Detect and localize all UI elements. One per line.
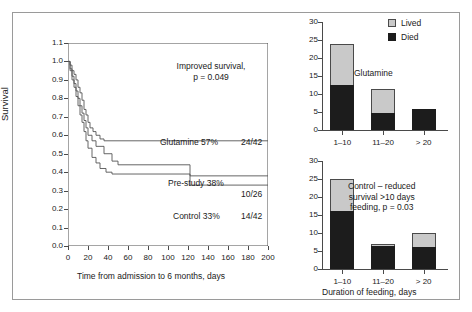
km-y-tick-label: 0.1 [41, 223, 63, 232]
glutamine-annotation: Glutamine [354, 68, 393, 79]
bar-y-tick-label: 20 [298, 192, 318, 201]
bar-y-tick-label: 10 [298, 228, 318, 237]
bar-y-tick-label: 0 [298, 264, 318, 273]
legend-swatch-died-icon [388, 33, 396, 41]
bar-y-axis-line [322, 161, 323, 270]
bar-segment-died [412, 247, 436, 269]
km-x-tick [208, 246, 209, 250]
bar-x-tick [383, 131, 384, 135]
bar-segment-died [371, 113, 395, 130]
control-annotation-line1: Control – reduced [348, 181, 416, 192]
km-y-tick-label: 0.3 [41, 186, 63, 195]
km-y-tick-label: 0.8 [41, 93, 63, 102]
bar-x-axis-line [322, 130, 448, 131]
km-x-tick [188, 246, 189, 250]
km-x-axis-title: Time from admission to 6 months, days [77, 271, 225, 281]
bar-y-tick [318, 197, 322, 198]
km-x-tick [108, 246, 109, 250]
bar-category-label: 11–20 [363, 277, 403, 286]
legend-item-lived: Lived [388, 18, 450, 28]
km-x-tick [168, 246, 169, 250]
km-y-tick-label: 0.4 [41, 167, 63, 176]
bar-y-tick [318, 40, 322, 41]
bar-x-tick [342, 131, 343, 135]
km-x-tick [88, 246, 89, 250]
bar-segment-died [330, 85, 354, 130]
legend-item-died: Died [388, 32, 450, 42]
bar-segment-died [330, 211, 354, 269]
km-curve-label-control: Control 33% [173, 211, 220, 222]
bar-x-tick [342, 270, 343, 274]
bar-segment-died [371, 246, 395, 269]
km-y-tick-label: 0.5 [41, 149, 63, 158]
bar-y-tick-label: 30 [298, 156, 318, 165]
bar-y-tick [318, 233, 322, 234]
bar-category-label: > 20 [404, 138, 444, 147]
legend-label-lived: Lived [401, 18, 421, 28]
km-annotation-line1: Improved survival, [161, 61, 261, 72]
km-ratio-prestudy: 10/26 [241, 189, 262, 199]
bar-segment-lived [371, 89, 395, 113]
bar-y-tick [318, 161, 322, 162]
bar-segment-died [412, 109, 436, 130]
bar-x-axis-line [322, 269, 448, 270]
bar-y-tick-label: 20 [298, 53, 318, 62]
chart-legend: Lived Died [388, 18, 450, 46]
bar-category-label: 1–10 [322, 138, 362, 147]
bar-y-tick [318, 269, 322, 270]
bar-x-tick [424, 131, 425, 135]
bar-y-tick-label: 0 [298, 125, 318, 134]
bar-y-tick-label: 25 [298, 35, 318, 44]
bar-y-tick [318, 76, 322, 77]
km-y-tick-label: 0.2 [41, 204, 63, 213]
legend-swatch-lived-icon [388, 19, 396, 27]
km-ratio-glutamine: 24/42 [241, 137, 262, 147]
km-x-tick [228, 246, 229, 250]
km-y-axis-title: Survival [0, 87, 10, 121]
bar-category-label: 11–20 [363, 138, 403, 147]
control-annotation-line2: survival >10 days [348, 192, 416, 203]
km-curve-label-glutamine: Glutamine 57% [160, 137, 218, 148]
bar-y-tick [318, 215, 322, 216]
km-y-tick-label: 1.1 [41, 38, 63, 47]
bar-y-tick-label: 5 [298, 246, 318, 255]
figure-root: Survival 0.00.10.20.30.40.50.60.70.80.91… [0, 0, 472, 312]
km-x-tick [68, 246, 69, 250]
bar-y-tick [318, 179, 322, 180]
control-bar-plot-area [322, 161, 444, 269]
control-x-axis-title: Duration of feeding, days [322, 287, 417, 297]
km-y-tick-label: 0.9 [41, 75, 63, 84]
bar-y-tick-label: 15 [298, 71, 318, 80]
km-y-tick-label: 0.0 [41, 241, 63, 250]
km-x-tick-label: 200 [256, 253, 280, 262]
bar-y-tick-label: 25 [298, 174, 318, 183]
bar-x-tick [424, 270, 425, 274]
km-y-tick-label: 0.7 [41, 112, 63, 121]
bar-category-label: 1–10 [322, 277, 362, 286]
bar-category-label: > 20 [404, 277, 444, 286]
bar-y-tick [318, 112, 322, 113]
km-ratio-control: 14/42 [241, 211, 262, 221]
km-x-tick [248, 246, 249, 250]
bar-y-tick-label: 5 [298, 107, 318, 116]
bar-y-tick-label: 15 [298, 210, 318, 219]
km-y-tick-label: 0.6 [41, 130, 63, 139]
bar-y-tick [318, 130, 322, 131]
control-annotation: Control – reduced survival >10 days feed… [348, 181, 416, 213]
km-y-tick-label: 1.0 [41, 56, 63, 65]
bar-y-tick-label: 30 [298, 17, 318, 26]
bar-segment-lived [330, 44, 354, 85]
bar-y-axis-line [322, 22, 323, 131]
bar-x-tick [383, 270, 384, 274]
bar-y-tick [318, 22, 322, 23]
km-curve-label-prestudy: Pre-study 38% [168, 178, 224, 189]
km-x-tick [148, 246, 149, 250]
km-pvalue-annotation: Improved survival, p = 0.049 [161, 61, 261, 82]
bar-y-tick [318, 58, 322, 59]
legend-label-died: Died [401, 32, 418, 42]
control-annotation-line3: feeding, p = 0.03 [348, 202, 416, 213]
control-bar-panel: 051015202530 1–1011–20> 20 Control – red… [292, 155, 460, 300]
km-x-tick [268, 246, 269, 250]
bar-y-tick [318, 251, 322, 252]
km-annotation-line2: p = 0.049 [161, 72, 261, 83]
